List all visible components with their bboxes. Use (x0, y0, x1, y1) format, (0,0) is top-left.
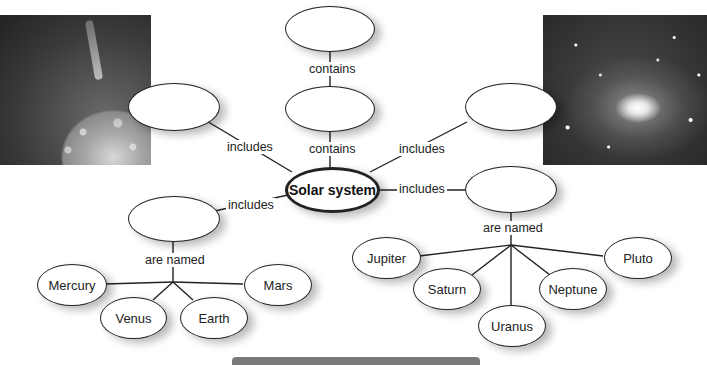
planet-node-saturn[interactable]: Saturn (413, 268, 481, 310)
link-label-includes-lower-right: includes (397, 182, 447, 196)
blank-node-upper-left[interactable] (128, 83, 220, 131)
link-label-includes-lower-left: includes (226, 198, 276, 212)
blank-node-top[interactable] (285, 6, 375, 52)
blank-node-lower-right[interactable] (465, 166, 557, 213)
link-label-are-named-left: are named (143, 253, 207, 267)
bottom-caption-bar (232, 357, 480, 365)
planet-node-mercury[interactable]: Mercury (37, 264, 107, 306)
planet-node-neptune[interactable]: Neptune (539, 268, 607, 310)
planet-node-uranus[interactable]: Uranus (478, 305, 546, 347)
link-label-includes-upper-right: includes (397, 142, 447, 156)
planet-node-venus[interactable]: Venus (100, 297, 167, 339)
solar-system-node[interactable]: Solar system (285, 167, 380, 213)
planet-node-pluto[interactable]: Pluto (604, 237, 672, 279)
link-label-contains-middle: contains (307, 142, 358, 156)
planet-node-mars[interactable]: Mars (244, 264, 312, 306)
blank-node-middle[interactable] (285, 86, 375, 132)
blank-node-upper-right[interactable] (465, 83, 557, 131)
blank-node-lower-left[interactable] (128, 196, 220, 242)
link-label-contains-top: contains (307, 62, 358, 76)
planet-node-jupiter[interactable]: Jupiter (352, 237, 421, 279)
planet-node-earth[interactable]: Earth (180, 297, 248, 339)
link-label-are-named-right: are named (481, 221, 545, 235)
link-label-includes-upper-left: includes (225, 140, 275, 154)
